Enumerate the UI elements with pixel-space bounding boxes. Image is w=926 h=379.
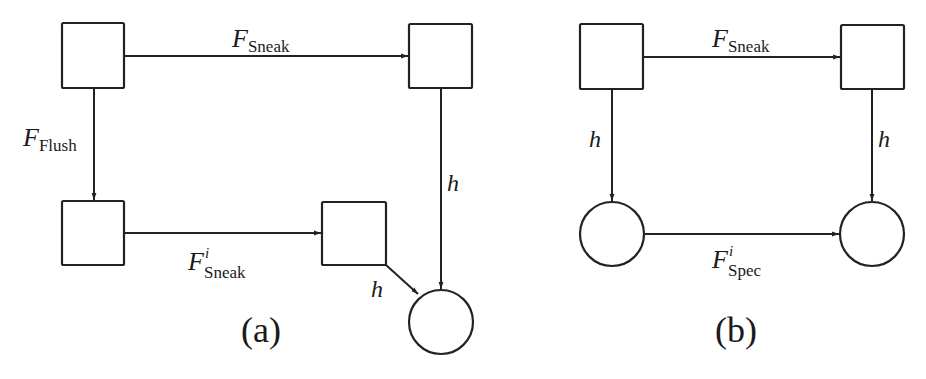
- diagram-a: FSneak FFlush FiSneak h h (a): [22, 23, 473, 354]
- node-b-bottom-right-circle: [840, 202, 904, 266]
- caption-b: (b): [715, 310, 757, 350]
- label-b-sneak: FSneak: [711, 24, 770, 56]
- label-a-h-right: h: [447, 170, 459, 196]
- node-a-circle: [409, 290, 473, 354]
- node-a-bottom-middle: [322, 202, 386, 265]
- commutative-diagrams: FSneak FFlush FiSneak h h (a) FSneak h h…: [0, 0, 926, 379]
- node-b-top-right: [841, 25, 904, 89]
- node-b-bottom-left-circle: [580, 202, 644, 266]
- label-b-h-left: h: [589, 126, 601, 152]
- label-b-h-right: h: [878, 126, 890, 152]
- label-a-h-diag: h: [371, 276, 383, 302]
- edge-a-h-diag: [386, 265, 418, 294]
- label-a-flush: FFlush: [22, 123, 77, 155]
- diagram-b: FSneak h h FiSpec (b): [580, 24, 904, 350]
- node-a-top-left: [62, 23, 124, 88]
- label-b-spec-i: FiSpec: [711, 243, 762, 280]
- node-b-top-left: [580, 24, 643, 89]
- label-a-sneak-i: FiSneak: [187, 245, 246, 282]
- node-a-top-right: [409, 24, 472, 88]
- node-a-bottom-left: [62, 201, 124, 265]
- caption-a: (a): [241, 310, 281, 350]
- label-a-sneak: FSneak: [231, 24, 290, 56]
